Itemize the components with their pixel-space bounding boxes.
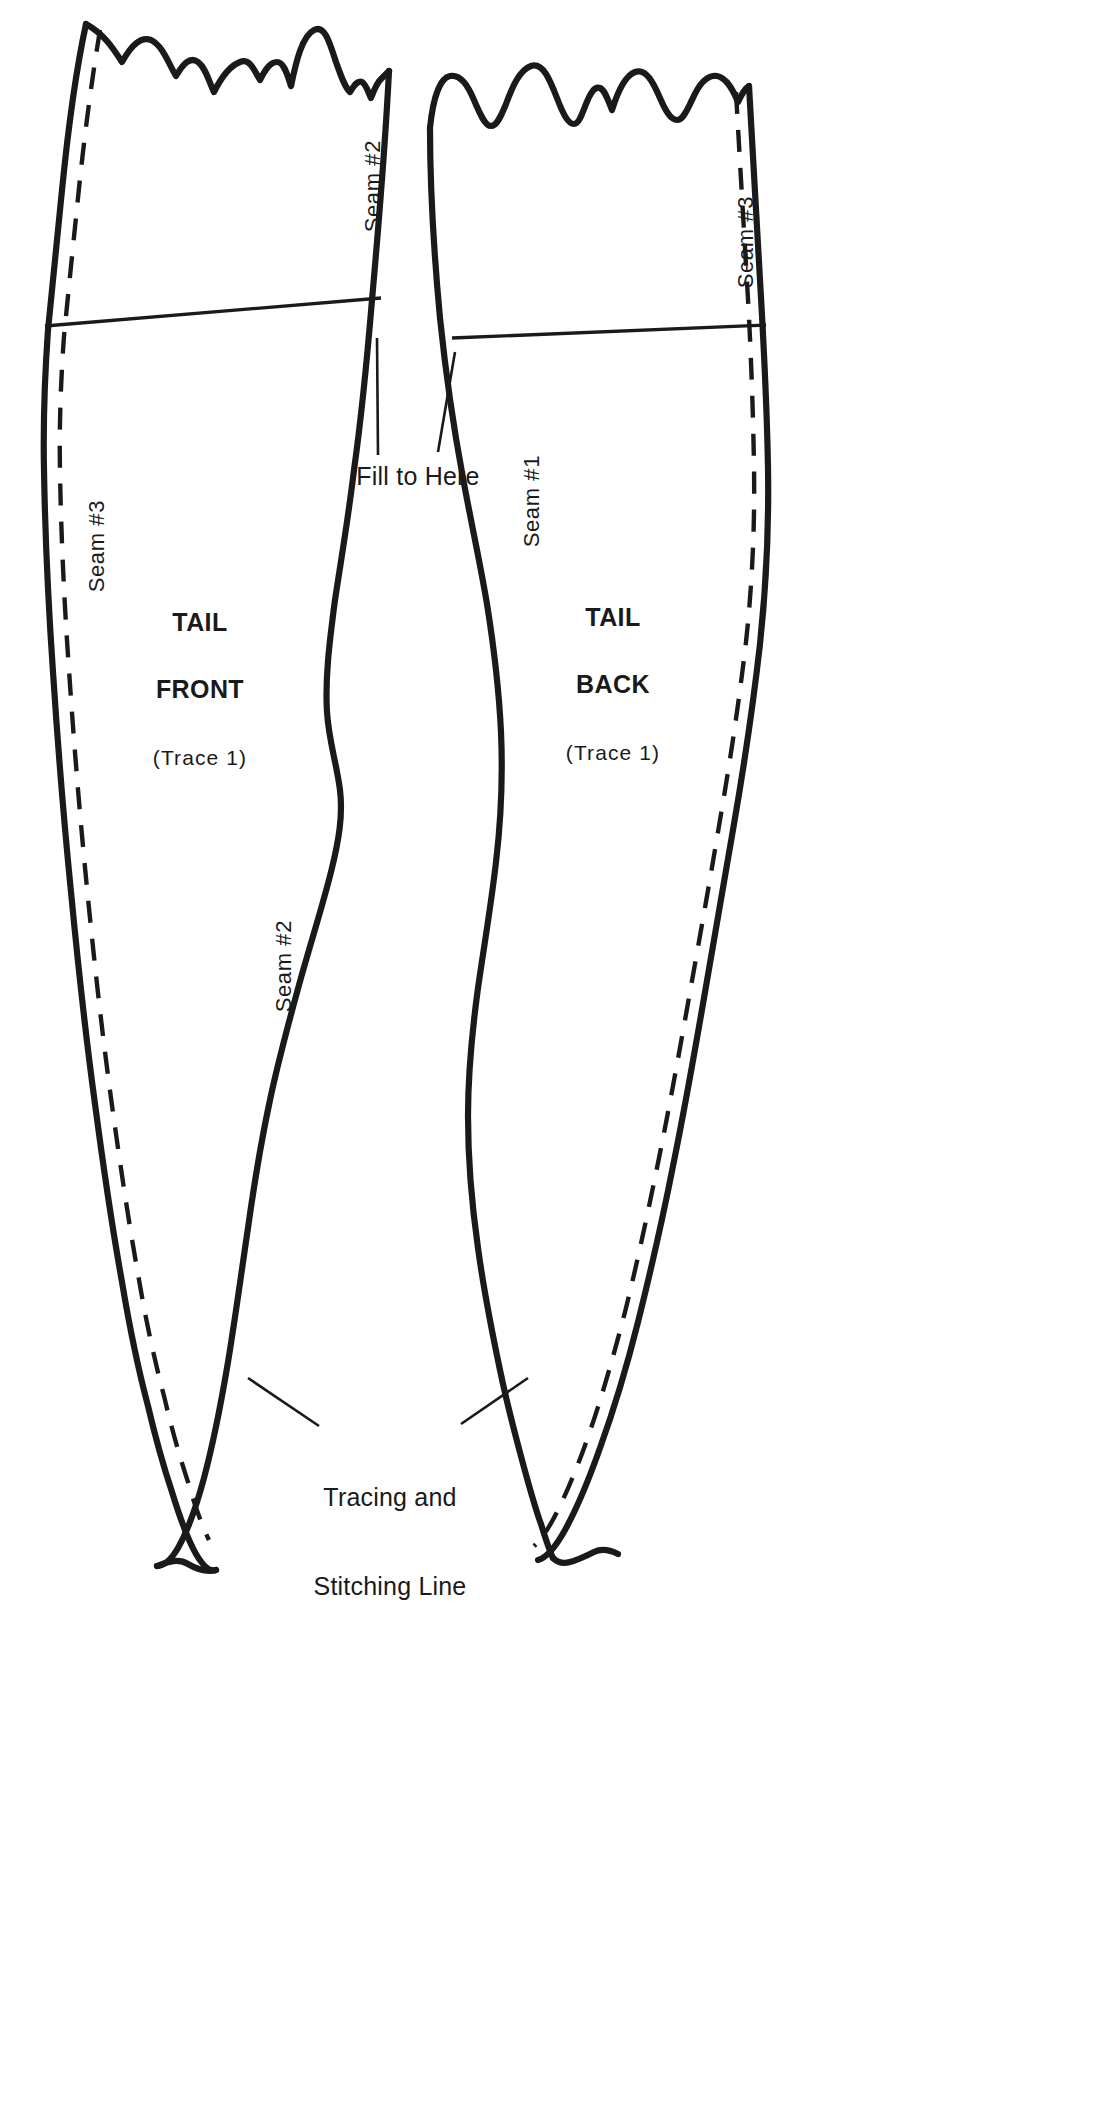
- tail-front-title-line2: FRONT: [110, 675, 290, 705]
- tail-back-right-edge: [538, 86, 768, 1560]
- tail-back-title-line2: BACK: [523, 670, 703, 700]
- tail-front-title-line1: TAIL: [110, 608, 290, 638]
- tail-back-stitching-line: [534, 92, 754, 1546]
- callout-leader-lines: [248, 338, 528, 1426]
- tail-back-bottom-tip: [553, 1550, 618, 1563]
- seam-label-front-right-upper: Seam #2: [360, 140, 386, 232]
- seam-label-front-left: Seam #3: [84, 500, 110, 592]
- tail-front-outline: [86, 24, 389, 98]
- pattern-drawing: [0, 0, 1093, 2102]
- tail-front-trace-note: (Trace 1): [110, 746, 290, 771]
- tail-back-left-edge: [430, 128, 553, 1558]
- tail-front-label-block: TAIL FRONT (Trace 1): [110, 570, 290, 809]
- tail-front-fill-line: [45, 298, 381, 326]
- seam-label-back-left: Seam #1: [519, 455, 545, 547]
- tracing-stitching-callout: Tracing and Stitching Line: [290, 1424, 490, 1660]
- tail-back-piece: [430, 65, 768, 1562]
- tracing-line-leader-left: [248, 1378, 319, 1426]
- tail-back-outline: [430, 65, 749, 128]
- tracing-stitching-line2: Stitching Line: [290, 1572, 490, 1602]
- pattern-sheet: Seam #2 Seam #3 Seam #2 Seam #3 Seam #1 …: [0, 0, 1093, 2102]
- tracing-line-leader-right: [461, 1378, 528, 1424]
- fill-to-here-callout: Fill to Here: [330, 462, 506, 492]
- seam-label-front-right-lower: Seam #2: [271, 920, 297, 1012]
- tail-back-label-block: TAIL BACK (Trace 1): [523, 565, 703, 804]
- seam-label-back-right: Seam #3: [733, 196, 759, 288]
- tail-back-title-line1: TAIL: [523, 603, 703, 633]
- tail-front-right-edge: [157, 71, 389, 1566]
- fill-to-here-leader-left: [377, 338, 378, 455]
- tracing-stitching-line1: Tracing and: [290, 1483, 490, 1513]
- tail-back-trace-note: (Trace 1): [523, 741, 703, 766]
- tail-back-fill-line: [452, 325, 766, 338]
